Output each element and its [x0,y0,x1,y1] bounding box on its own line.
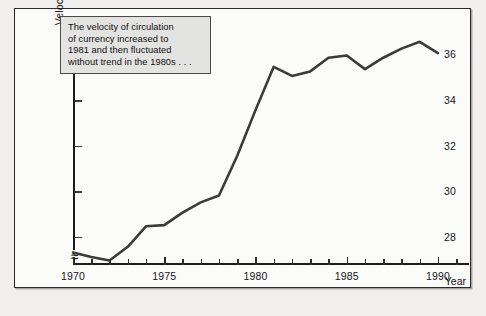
chart-frame: ≈ Velocity of circulation of currency (G… [14,8,471,288]
annotation-line-3: 1981 and then fluctuated [68,45,204,57]
x-axis-title: Year [445,275,466,287]
x-tick-label-1980: 1980 [243,270,267,282]
figure-screenshot: ≈ Velocity of circulation of currency (G… [0,0,486,316]
chart-annotation-box: The velocity of circulation of currency … [60,16,211,74]
annotation-line-1: The velocity of circulation [68,22,204,34]
x-tick-label-1970: 1970 [61,270,85,282]
x-tick-label-1975: 1975 [152,270,176,282]
annotation-line-2: of currency increased to [68,34,204,46]
x-tick-label-1985: 1985 [335,270,359,282]
line-series-velocity [73,42,438,261]
annotation-line-4: without trend in the 1980s . . . [68,57,204,69]
